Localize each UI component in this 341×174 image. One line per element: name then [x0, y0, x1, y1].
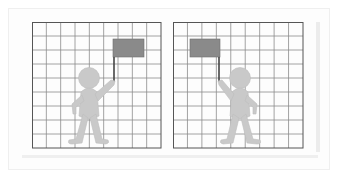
- frame-shadow-vertical: [316, 22, 320, 152]
- grid-left: [32, 22, 162, 149]
- panel-left: [32, 22, 162, 149]
- frame-shadow-horizontal: [22, 155, 318, 158]
- panel-right: [173, 22, 304, 149]
- flag-icon: [190, 39, 220, 82]
- grid-right: [173, 22, 304, 149]
